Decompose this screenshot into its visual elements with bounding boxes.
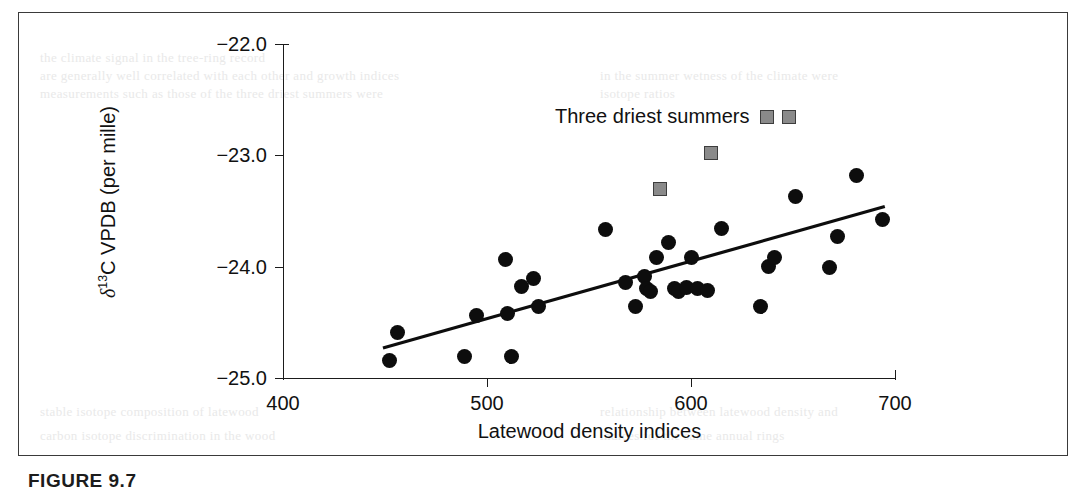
data-point: [684, 250, 699, 265]
y-tick-mark: [275, 378, 289, 379]
gray-square-icon: [760, 110, 774, 124]
x-tick-mark: [691, 378, 692, 387]
delta-symbol: δ: [97, 289, 119, 298]
x-axis: [283, 378, 896, 379]
data-point: [788, 189, 803, 204]
legend-label: Three driest summers: [555, 105, 750, 128]
x-tick-label: 700: [878, 392, 911, 415]
x-axis-label: Latewood density indices: [283, 420, 896, 443]
figure-caption: FIGURE 9.7: [28, 470, 136, 492]
y-tick-mark: [275, 267, 283, 268]
highlight-data-point: [704, 146, 718, 160]
x-tick-mark: [895, 370, 896, 380]
data-point: [849, 168, 864, 183]
data-point: [753, 299, 768, 314]
legend: Three driest summers: [555, 105, 774, 128]
y-tick-label: −24.0: [0, 255, 267, 278]
x-tick-label: 600: [674, 392, 707, 415]
y-tick-mark: [275, 155, 283, 156]
x-tick-label: 500: [470, 392, 503, 415]
data-point: [643, 284, 658, 299]
x-tick-label: 400: [266, 392, 299, 415]
highlight-data-point: [782, 110, 796, 124]
y-axis-label-rest: C VPDB (per mille): [97, 106, 119, 275]
trend-line: [283, 44, 895, 378]
data-point: [390, 325, 405, 340]
data-point: [531, 299, 546, 314]
data-point: [661, 235, 676, 250]
data-point: [382, 353, 397, 368]
data-point: [618, 275, 633, 290]
plot-area: [283, 44, 895, 378]
y-axis-label: δ13C VPDB (per mille): [96, 52, 120, 352]
y-tick-label: −23.0: [0, 144, 267, 167]
data-point: [500, 306, 515, 321]
data-point: [649, 250, 664, 265]
highlight-data-point: [653, 182, 667, 196]
figure-page: the climate signal in the tree-ring reco…: [0, 0, 1084, 492]
data-point: [700, 283, 715, 298]
y-tick-label: −22.0: [0, 33, 267, 56]
x-tick-mark: [487, 378, 488, 387]
y-tick-label: −25.0: [0, 367, 267, 390]
